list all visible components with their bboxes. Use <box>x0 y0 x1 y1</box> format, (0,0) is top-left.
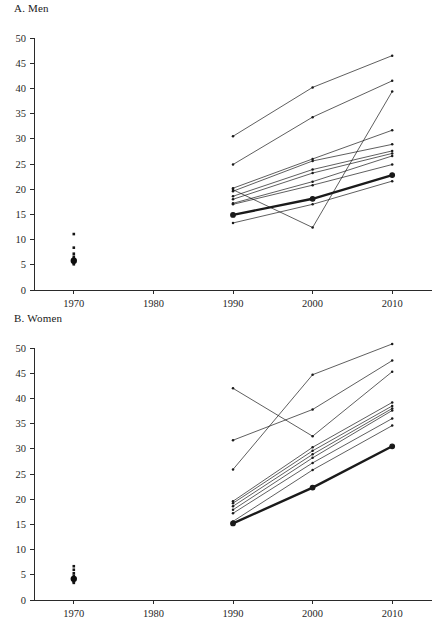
series-marker <box>391 424 394 427</box>
x-tick-label: 1980 <box>143 608 164 619</box>
x-tick-label: 1990 <box>223 608 244 619</box>
scatter-point-1970 <box>73 568 76 571</box>
y-tick-label: 35 <box>16 108 27 119</box>
series-line <box>233 56 392 137</box>
y-tick-label: 40 <box>16 83 27 94</box>
series-marker <box>232 387 235 390</box>
series-line <box>233 81 392 165</box>
series-marker <box>311 462 314 465</box>
series-marker <box>391 409 394 412</box>
series-marker <box>310 196 315 201</box>
y-tick-label: 0 <box>21 285 26 296</box>
panel-a-men: A. Men 051015202530354045501970198019902… <box>0 0 436 312</box>
y-tick-label: 40 <box>16 393 27 404</box>
series-marker <box>231 521 236 526</box>
series-marker <box>311 453 314 456</box>
series-marker <box>311 180 314 183</box>
scatter-point-1970 <box>73 565 76 568</box>
series-marker <box>232 188 235 191</box>
y-tick-label: 5 <box>21 259 26 270</box>
y-tick-label: 25 <box>16 159 27 170</box>
series-marker <box>311 373 314 376</box>
scatter-1970-group <box>71 233 77 266</box>
y-tick-label: 20 <box>16 494 27 505</box>
series-marker <box>311 450 314 453</box>
series-marker <box>311 457 314 460</box>
series-marker <box>391 155 394 158</box>
series-marker <box>390 444 395 449</box>
scatter-1970-group <box>71 565 77 584</box>
series-group <box>231 54 395 228</box>
scatter-point-1970 <box>73 572 76 575</box>
series-marker <box>311 203 314 206</box>
series-marker <box>231 213 236 218</box>
series-line <box>233 181 392 223</box>
series-marker <box>391 129 394 132</box>
y-tick-label: 45 <box>16 368 27 379</box>
series-marker <box>232 195 235 198</box>
y-tick-label: 0 <box>21 595 26 606</box>
x-tick-label: 1970 <box>63 298 84 309</box>
series-marker <box>232 203 235 206</box>
series-marker <box>232 135 235 138</box>
series-marker <box>311 226 314 229</box>
series-marker <box>391 143 394 146</box>
series-marker <box>311 469 314 472</box>
y-tick-label: 5 <box>21 569 26 580</box>
series-line <box>233 372 392 437</box>
series-marker <box>311 168 314 171</box>
axis-group: 0510152025303540455019701980199020002010 <box>16 343 433 619</box>
series-line <box>233 426 392 522</box>
panel-b-women: B. Women 0510152025303540455019701980199… <box>0 310 436 621</box>
series-marker <box>232 222 235 225</box>
x-tick-label: 1990 <box>223 298 244 309</box>
series-marker <box>391 150 394 153</box>
y-tick-label: 50 <box>16 33 27 44</box>
y-tick-label: 15 <box>16 209 27 220</box>
y-tick-label: 35 <box>16 418 27 429</box>
y-tick-label: 45 <box>16 58 27 69</box>
scatter-point-1970 <box>73 246 76 249</box>
series-marker <box>391 343 394 346</box>
x-tick-label: 2000 <box>302 608 323 619</box>
y-tick-label: 10 <box>16 234 27 245</box>
x-tick-label: 1980 <box>143 298 164 309</box>
series-marker <box>311 184 314 187</box>
series-marker <box>311 435 314 438</box>
series-marker <box>310 485 315 490</box>
series-marker <box>311 160 314 163</box>
y-tick-label: 15 <box>16 519 27 530</box>
series-line <box>233 361 392 441</box>
series-marker <box>232 163 235 166</box>
panel-b-title: B. Women <box>14 312 62 324</box>
scatter-point-1970 <box>73 252 76 255</box>
y-tick-label: 30 <box>16 133 27 144</box>
chart-a-men-plot: 0510152025303540455019701980199020002010 <box>0 14 436 312</box>
panel-a-title: A. Men <box>14 2 49 14</box>
series-marker <box>391 359 394 362</box>
series-marker <box>391 90 394 93</box>
x-tick-label: 1970 <box>63 608 84 619</box>
series-group <box>231 343 395 526</box>
series-marker <box>391 180 394 183</box>
x-tick-label: 2000 <box>302 298 323 309</box>
series-marker <box>311 116 314 119</box>
series-marker <box>391 152 394 155</box>
series-marker <box>232 198 235 201</box>
series-marker <box>391 405 394 408</box>
scatter-mean-marker-1970 <box>71 258 77 264</box>
y-tick-label: 20 <box>16 184 27 195</box>
series-marker <box>391 163 394 166</box>
scatter-point-1970 <box>73 233 76 236</box>
series-marker <box>311 172 314 175</box>
series-marker <box>232 505 235 508</box>
series-marker <box>232 509 235 512</box>
y-tick-label: 50 <box>16 343 27 354</box>
figure-two-panel-line-chart: A. Men 051015202530354045501970198019902… <box>0 0 436 621</box>
series-marker <box>232 468 235 471</box>
axis-group: 0510152025303540455019701980199020002010 <box>16 33 433 309</box>
series-marker <box>391 417 394 420</box>
series-marker <box>391 54 394 57</box>
y-tick-label: 25 <box>16 469 27 480</box>
x-tick-label: 2010 <box>382 608 403 619</box>
